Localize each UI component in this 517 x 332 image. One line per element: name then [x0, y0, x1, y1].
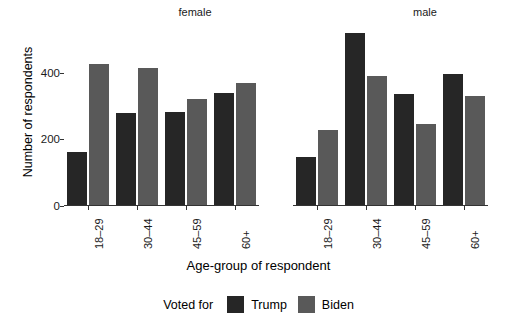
x-tick-mark	[235, 206, 236, 210]
y-tick-label: 400	[26, 67, 60, 79]
bar-female-45-59-trump	[165, 112, 185, 206]
x-tick-label-45-59: 45–59	[420, 218, 432, 249]
panel-female	[64, 26, 259, 206]
bars-male	[293, 26, 488, 206]
bar-female-45-59-biden	[187, 99, 207, 206]
x-axis-title: Age-group of respondent	[0, 258, 517, 273]
x-tick-label-60+: 60+	[240, 230, 252, 249]
y-axis-tick-labels: 0200400	[20, 0, 60, 332]
bar-female-60+-biden	[236, 83, 256, 206]
x-tick-mark	[317, 206, 318, 210]
legend-title: Voted for	[163, 298, 213, 312]
x-tick-mark	[415, 206, 416, 210]
bar-male-30-44-trump	[345, 33, 365, 206]
bar-male-45-59-trump	[394, 94, 414, 206]
x-tick-label-60+: 60+	[469, 230, 481, 249]
x-tick-label-18-29: 18–29	[93, 218, 105, 249]
bar-female-30-44-trump	[116, 113, 136, 206]
legend-swatch-trump	[227, 296, 244, 313]
y-tick-label: 0	[26, 200, 60, 212]
bar-female-18-29-trump	[67, 152, 87, 206]
bar-male-18-29-trump	[296, 157, 316, 206]
y-tick-mark	[60, 206, 64, 207]
x-tick-label-18-29: 18–29	[322, 218, 334, 249]
x-tick-mark	[88, 206, 89, 210]
y-tick-mark	[60, 73, 64, 74]
bar-female-60+-trump	[214, 93, 234, 206]
bar-male-18-29-biden	[318, 130, 338, 206]
facet-label-male: male	[350, 6, 500, 18]
y-tick-label: 200	[26, 133, 60, 145]
x-axis-line-female	[64, 205, 259, 206]
legend-swatch-biden	[298, 296, 315, 313]
x-tick-mark	[366, 206, 367, 210]
bar-female-18-29-biden	[89, 64, 109, 206]
bar-female-30-44-biden	[138, 68, 158, 206]
bar-male-60+-biden	[465, 96, 485, 206]
bar-male-60+-trump	[443, 74, 463, 206]
facet-label-female: female	[120, 6, 270, 18]
bars-female	[64, 26, 259, 206]
bar-male-30-44-biden	[367, 76, 387, 206]
x-tick-mark	[137, 206, 138, 210]
legend-label-trump: Trump	[251, 298, 287, 312]
x-axis-line-male	[293, 205, 488, 206]
x-tick-mark	[186, 206, 187, 210]
x-tick-label-30-44: 30–44	[371, 218, 383, 249]
bar-chart-figure: female male Number of respondents 020040…	[0, 0, 517, 332]
x-tick-mark	[464, 206, 465, 210]
panel-male	[293, 26, 488, 206]
y-tick-mark	[60, 139, 64, 140]
legend-entry-trump[interactable]: Trump	[227, 296, 287, 313]
legend-entry-biden[interactable]: Biden	[298, 296, 354, 313]
x-tick-label-45-59: 45–59	[191, 218, 203, 249]
x-tick-label-30-44: 30–44	[142, 218, 154, 249]
legend: Voted for Trump Biden	[0, 296, 517, 313]
bar-male-45-59-biden	[416, 124, 436, 206]
legend-label-biden: Biden	[322, 298, 354, 312]
